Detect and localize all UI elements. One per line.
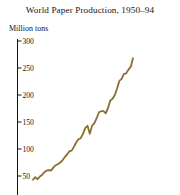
- data-series-group: [33, 58, 133, 180]
- y-axis-tick-label: 250: [23, 64, 35, 73]
- y-axis-ticks: 30025020015010050: [18, 37, 35, 181]
- y-axis-tick-label: 100: [23, 145, 35, 154]
- y-axis: 30025020015010050: [18, 37, 35, 195]
- line-series-world-paper-production: [33, 58, 133, 180]
- y-axis-tick-label: 200: [23, 91, 35, 100]
- y-axis-tick-label: 150: [23, 118, 35, 127]
- y-axis-tick-label: 50: [23, 172, 31, 181]
- plot-area: 30025020015010050: [0, 0, 180, 195]
- y-axis-tick-label: 300: [23, 37, 35, 46]
- chart-figure: World Paper Production, 1950–94 Million …: [0, 0, 180, 195]
